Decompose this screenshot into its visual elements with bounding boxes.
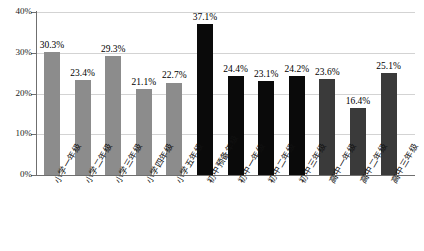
x-axis-label: 高中三年级 [387, 140, 420, 185]
x-axis-labels: 小学一年级小学二年级小学三年级小学四年级小学五年级初中预备年级初中一年级初中二年… [0, 0, 424, 251]
x-axis-label: 小学一年级 [50, 140, 83, 185]
x-axis-label: 小学二年级 [81, 140, 114, 185]
x-axis-label: 初中三年级 [295, 140, 328, 185]
bar-chart: 40% 30% 20% 10% 0% 30.3%23.4%29.3%21.1%2… [0, 0, 424, 251]
x-axis-label: 小学五年级 [172, 140, 205, 185]
x-axis-label: 小学三年级 [111, 140, 144, 185]
x-axis-label: 初中一年级 [234, 140, 267, 185]
x-axis-label: 高中一年级 [325, 140, 358, 185]
x-axis-label: 初中二年级 [264, 140, 297, 185]
x-axis-label: 小学四年级 [142, 140, 175, 185]
x-axis-label: 高中二年级 [356, 140, 389, 185]
